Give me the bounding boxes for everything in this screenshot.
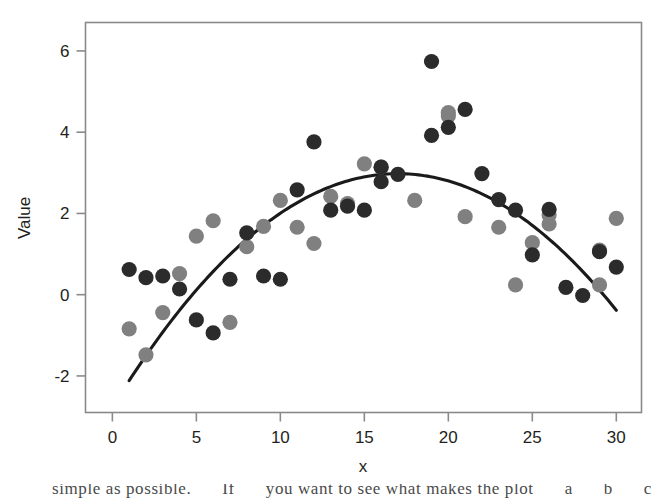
data-point (357, 156, 372, 171)
y-axis-ticks: -20246 (54, 42, 85, 386)
data-point (256, 219, 271, 234)
data-point (206, 325, 221, 340)
data-point (458, 209, 473, 224)
data-point (458, 102, 473, 117)
data-point (122, 321, 137, 336)
bleed-fragment-1: simple as possible. (52, 484, 191, 499)
data-point (172, 266, 187, 281)
data-point (239, 239, 254, 254)
data-point (273, 193, 288, 208)
data-point (155, 268, 170, 283)
data-point (172, 281, 187, 296)
data-point (138, 270, 153, 285)
data-point (290, 220, 305, 235)
x-tick-label: 0 (108, 428, 117, 447)
data-point (474, 166, 489, 181)
data-point (189, 312, 204, 327)
y-tick-label: 4 (60, 123, 69, 142)
scatter-plot: -20246 051015202530 x Value (0, 0, 658, 504)
data-point (508, 277, 523, 292)
data-point (390, 167, 405, 182)
data-point (592, 277, 607, 292)
bleed-fragment-3: you want to see what makes the plot (266, 484, 534, 499)
x-tick-label: 10 (271, 428, 290, 447)
data-point (357, 203, 372, 218)
data-point (340, 199, 355, 214)
data-point (491, 220, 506, 235)
data-point (542, 202, 557, 217)
data-point (239, 225, 254, 240)
y-axis-label: Value (15, 197, 34, 239)
data-point (374, 160, 389, 175)
data-point (508, 203, 523, 218)
y-tick-label: 2 (60, 204, 69, 223)
data-point (441, 105, 456, 120)
data-point (256, 268, 271, 283)
data-point (189, 229, 204, 244)
data-point (424, 128, 439, 143)
data-point (273, 272, 288, 287)
data-point (558, 280, 573, 295)
data-point (592, 244, 607, 259)
data-point (222, 315, 237, 330)
bleed-fragment-5: b (604, 484, 613, 499)
page-text-bleed: simple as possible. If you want to see w… (0, 484, 658, 504)
data-point (206, 213, 221, 228)
data-point (424, 54, 439, 69)
x-axis-label: x (359, 457, 368, 476)
data-point (323, 203, 338, 218)
data-point (222, 272, 237, 287)
y-tick-label: 6 (60, 42, 69, 61)
data-point (609, 259, 624, 274)
data-point (374, 174, 389, 189)
data-point (306, 134, 321, 149)
data-point (306, 236, 321, 251)
y-tick-label: -2 (54, 367, 69, 386)
dark-points-series (122, 54, 624, 341)
data-point (122, 262, 137, 277)
data-point (525, 247, 540, 262)
data-point (290, 182, 305, 197)
bleed-fragment-2: If (222, 484, 235, 499)
data-point (407, 193, 422, 208)
y-tick-label: 0 (60, 286, 69, 305)
data-point (491, 192, 506, 207)
data-point (155, 305, 170, 320)
x-tick-label: 5 (192, 428, 201, 447)
data-point (323, 189, 338, 204)
data-point (441, 120, 456, 135)
bleed-fragment-6: c (644, 484, 652, 499)
x-tick-label: 20 (439, 428, 458, 447)
data-point (575, 288, 590, 303)
x-tick-label: 25 (523, 428, 542, 447)
x-tick-label: 15 (355, 428, 374, 447)
data-point (609, 211, 624, 226)
x-tick-label: 30 (607, 428, 626, 447)
bleed-fragment-4: a (565, 484, 573, 499)
data-point (138, 347, 153, 362)
x-axis-ticks: 051015202530 (108, 413, 626, 447)
figure-container: -20246 051015202530 x Value simple as po… (0, 0, 658, 504)
